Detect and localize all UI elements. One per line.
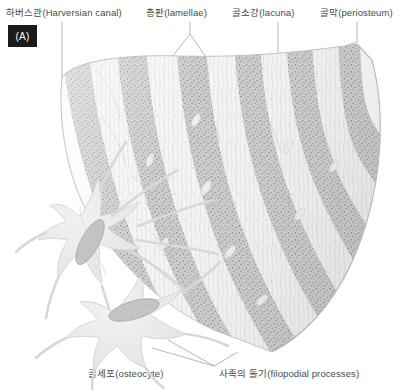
bone-osteon-illustration: [0, 0, 405, 390]
leader-filopodial-c: [214, 352, 238, 366]
leader-periosteum: [345, 22, 357, 46]
leader-filopodial-a: [168, 340, 214, 366]
leader-filopodial-b: [152, 348, 214, 366]
figure-panel-a: 하버스관(Harversian canal) 층판(lamellae) 골소강(…: [0, 0, 405, 390]
